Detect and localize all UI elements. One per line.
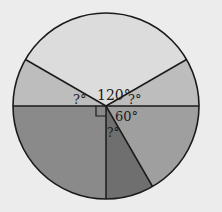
- label-lower-right-angle: 60°: [115, 109, 138, 124]
- label-upper-left-angle: ?°: [73, 92, 86, 107]
- label-top-angle: 120°: [97, 87, 131, 103]
- angle-pie-diagram: 120° ?° ?° 60° ?°: [0, 0, 222, 212]
- label-bottom-narrow-angle: ?°: [107, 126, 119, 140]
- lower-left-sector: [13, 106, 106, 199]
- label-upper-right-angle: ?°: [128, 92, 141, 107]
